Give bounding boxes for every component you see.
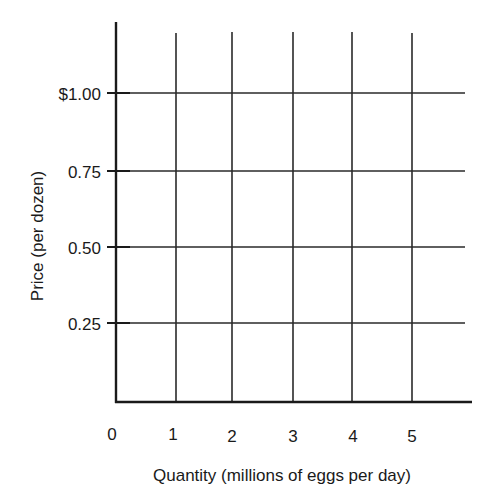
- x-tick-labels: 0 1 2 3 4 5: [107, 425, 416, 446]
- y-tick-label: 0.25: [68, 315, 101, 334]
- y-tick-marks: [107, 93, 130, 323]
- x-tick-label: 3: [288, 427, 297, 446]
- x-axis-title: Quantity (millions of eggs per day): [153, 466, 411, 485]
- y-axis-title: Price (per dozen): [28, 171, 47, 301]
- y-tick-labels: $1.00 0.75 0.50 0.25: [58, 85, 101, 334]
- x-tick-label: 2: [227, 427, 236, 446]
- x-tick-label: 1: [168, 425, 177, 444]
- y-tick-label: $1.00: [58, 85, 101, 104]
- y-tick-label: 0.75: [68, 163, 101, 182]
- vertical-gridlines: [176, 32, 412, 402]
- price-quantity-chart: $1.00 0.75 0.50 0.25 0 1 2 3 4 5 Quantit…: [0, 0, 486, 499]
- y-tick-label: 0.50: [68, 239, 101, 258]
- x-tick-label: 5: [407, 427, 416, 446]
- x-tick-label: 4: [348, 427, 357, 446]
- x-tick-label: 0: [107, 425, 116, 444]
